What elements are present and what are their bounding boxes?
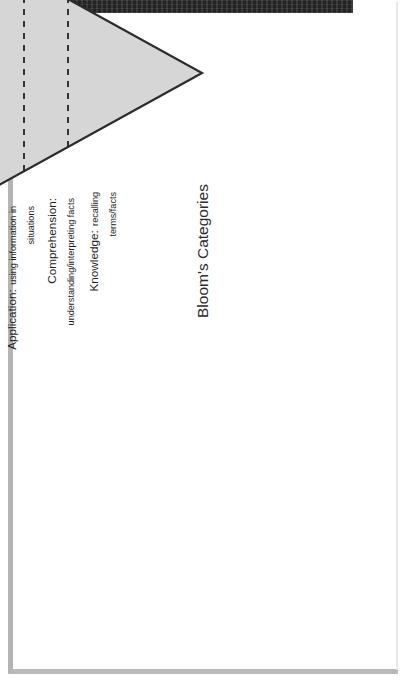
bloom-comprehension-head: Comprehension: xyxy=(45,198,58,284)
bloom-application-sub: using information in situations xyxy=(8,206,36,285)
taxonomy-triangle-diagram: Evaluation: judgments about validity of … xyxy=(0,0,272,414)
bloom-categories-axis-label: Bloom's Categories xyxy=(194,184,212,318)
rotated-content-stage: Taxonomy of Learning xyxy=(0,0,272,414)
bloom-application-head: Application: xyxy=(5,289,18,349)
scanned-page: Taxonomy of Learning xyxy=(0,0,410,686)
page-border-right-edge xyxy=(396,2,398,670)
bloom-knowledge-head: Knowledge: xyxy=(87,230,100,291)
bloom-knowledge-sub: recalling terms/facts xyxy=(90,192,118,236)
bloom-comprehension-sub: understanding/interpreting facts xyxy=(66,198,76,325)
bloom-item-application: Application: using information in situat… xyxy=(2,206,38,384)
bloom-item-comprehension: Comprehension: understanding/interpretin… xyxy=(42,198,78,378)
bloom-item-knowledge: Knowledge: recalling terms/facts xyxy=(84,192,120,328)
